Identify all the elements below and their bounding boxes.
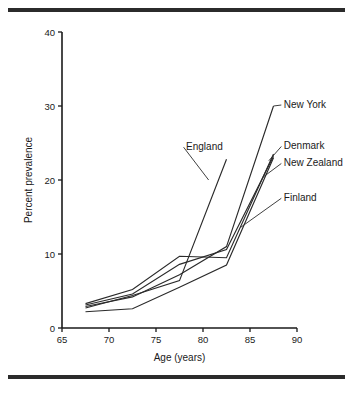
y-axis-title: Percent prevalence (23, 136, 34, 223)
x-axis-title: Age (years) (154, 352, 206, 363)
series-label-finland: Finland (284, 192, 317, 203)
x-tick-label: 80 (198, 334, 209, 345)
series-label-england: England (186, 141, 223, 152)
y-tick-label: 30 (44, 101, 55, 112)
leader-line-denmark (269, 146, 282, 160)
text-labels-group: 010203040657075808590Age (years)Percent … (23, 27, 343, 364)
series-line-new-zealand (86, 156, 274, 305)
series-label-new-york: New York (284, 99, 327, 110)
chart-svg: 010203040657075808590Age (years)Percent … (0, 0, 353, 396)
x-tick-label: 85 (245, 334, 256, 345)
x-tick-label: 65 (57, 334, 68, 345)
x-tick-label: 70 (104, 334, 115, 345)
series-label-denmark: Denmark (284, 140, 326, 151)
series-line-new-york (86, 106, 274, 307)
y-tick-label: 10 (44, 249, 55, 260)
y-tick-label: 0 (50, 323, 55, 334)
series-lines-group (86, 106, 274, 312)
series-label-new-zealand: New Zealand (284, 157, 343, 168)
leader-line-new-york (274, 105, 282, 106)
leader-lines-group (184, 105, 282, 227)
y-tick-label: 20 (44, 175, 55, 186)
x-tick-label: 75 (151, 334, 162, 345)
figure-container: 010203040657075808590Age (years)Percent … (0, 0, 353, 396)
series-line-finland (86, 158, 274, 312)
x-tick-label: 90 (292, 334, 303, 345)
y-tick-label: 40 (44, 27, 55, 38)
